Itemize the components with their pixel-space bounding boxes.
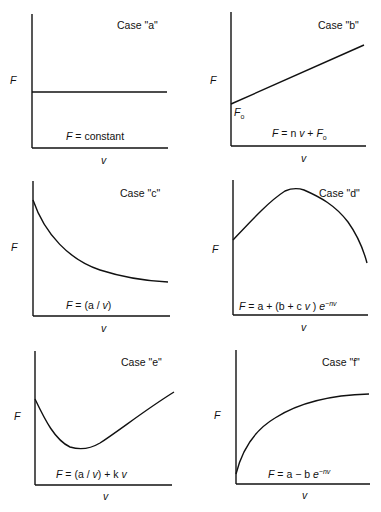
formula-exponent: −nv [325, 300, 336, 307]
panel-b-formula: F = n v + Fo [272, 128, 327, 141]
panel-c-case-label: Case "c" [120, 188, 160, 199]
panel-b-x-label: v [301, 153, 306, 164]
panel-a-y-label: F [10, 75, 16, 86]
figure-canvas [0, 0, 381, 512]
formula-v2: v [121, 468, 126, 480]
formula-mid: = (a / [72, 299, 102, 311]
panel-f-case-label: Case "f" [322, 357, 360, 368]
panel-e-y-label: F [14, 411, 20, 422]
panel-b-case-label: Case "b" [318, 20, 359, 31]
panel-e-curve [35, 392, 174, 449]
panel-a-x-label: v [101, 155, 106, 166]
panel-f-y-label: F [214, 410, 220, 421]
formula-end: ) [108, 299, 112, 311]
panel-a-axes [32, 14, 168, 148]
panel-f-x-label: v [302, 490, 307, 501]
panel-f-curve [236, 394, 369, 474]
intercept-sub: o [240, 113, 244, 120]
panel-e-axes [35, 351, 172, 485]
panel-c-axes [33, 181, 170, 316]
panel-c-formula: F = (a / v) [66, 300, 111, 311]
formula-rhs: = constant [72, 130, 124, 142]
formula-sub: o [323, 134, 327, 141]
formula-end: ) + k [98, 468, 122, 480]
panel-f-axes [236, 350, 370, 484]
formula-mid: = (a / [62, 468, 92, 480]
panel-d-x-label: v [301, 322, 306, 333]
panel-c-x-label: v [101, 323, 106, 334]
panel-d-axes [233, 180, 368, 315]
panel-b-curve [231, 45, 364, 104]
formula-mid: = n [278, 127, 299, 139]
panel-e-case-label: Case "e" [121, 357, 162, 368]
panel-e-x-label: v [103, 491, 108, 502]
formula-mid: = a + (b + c [245, 300, 304, 312]
panel-f-formula: F = a − b e−nv [268, 468, 330, 480]
panel-e-formula: F = (a / v) + k v [56, 469, 127, 480]
panel-a-formula: F = constant [66, 131, 124, 142]
panel-d-case-label: Case "d" [319, 188, 360, 199]
panel-c-y-label: F [11, 242, 17, 253]
formula-plus: + [304, 127, 316, 139]
panel-d-y-label: F [212, 244, 218, 255]
panel-d-curve [233, 189, 367, 263]
panel-d-formula: F = a + (b + c v ) e−nv [239, 300, 337, 312]
formula-mid: = a − b [274, 468, 313, 480]
formula-end: ) [310, 300, 319, 312]
panel-b-axes [231, 12, 366, 146]
panel-b-y-label: F [210, 75, 216, 86]
formula-exponent: −nv [319, 468, 330, 475]
panel-c-curve [33, 200, 168, 282]
panel-b-intercept-label: Fo [234, 107, 244, 120]
panel-a-case-label: Case "a" [117, 20, 158, 31]
